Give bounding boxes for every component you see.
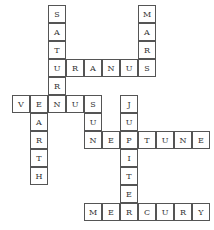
crossword-cell[interactable]: U [84,113,102,131]
crossword-cell[interactable]: J [120,95,138,113]
crossword-cell[interactable]: U [156,203,174,221]
crossword-cell[interactable]: M [138,5,156,23]
crossword-cell[interactable]: U [120,113,138,131]
crossword-cell[interactable]: R [138,41,156,59]
crossword-cell[interactable]: I [120,149,138,167]
crossword-cell[interactable]: R [174,203,192,221]
crossword-cell[interactable]: E [102,131,120,149]
crossword-cell[interactable]: Y [192,203,210,221]
crossword-cell[interactable]: U [156,131,174,149]
crossword-cell[interactable]: R [30,131,48,149]
crossword-cell[interactable]: T [120,167,138,185]
crossword-cell[interactable]: R [48,77,66,95]
crossword-cell[interactable]: V [12,95,30,113]
crossword-cell[interactable]: T [138,131,156,149]
crossword-cell[interactable]: E [192,131,210,149]
crossword-cell[interactable]: T [30,149,48,167]
crossword-cell[interactable]: N [84,131,102,149]
crossword-cell[interactable]: C [138,203,156,221]
crossword-cell[interactable]: N [174,131,192,149]
crossword-cell[interactable]: A [30,113,48,131]
crossword-cell[interactable]: E [30,95,48,113]
crossword-cell[interactable]: R [120,203,138,221]
crossword-cell[interactable]: S [138,59,156,77]
crossword-cell[interactable]: S [84,95,102,113]
crossword-cell[interactable]: P [120,131,138,149]
crossword-cell[interactable]: R [66,59,84,77]
crossword-cell[interactable]: S [48,5,66,23]
crossword-cell[interactable]: T [48,41,66,59]
crossword-cell[interactable]: E [120,185,138,203]
crossword-cell[interactable]: M [84,203,102,221]
crossword-cell[interactable]: A [138,23,156,41]
crossword-cell[interactable]: N [48,95,66,113]
crossword-cell[interactable]: A [84,59,102,77]
crossword-cell[interactable]: U [66,95,84,113]
crossword-cell[interactable]: E [102,203,120,221]
crossword-cell[interactable]: N [102,59,120,77]
crossword-cell[interactable]: U [48,59,66,77]
crossword-cell[interactable]: U [120,59,138,77]
crossword-cell[interactable]: A [48,23,66,41]
crossword-cell[interactable]: H [30,167,48,185]
